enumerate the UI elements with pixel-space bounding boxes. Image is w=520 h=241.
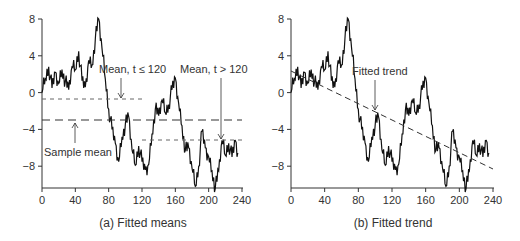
x-tick-label: 200	[199, 194, 217, 206]
x-tick-label: 40	[319, 194, 331, 206]
panel-a-fitted-means: 04080120160200240840−4−8 Mean, t ≤ 120 M…	[22, 13, 251, 230]
x-tick-label: 80	[352, 194, 364, 206]
y-tick-label: 8	[278, 13, 284, 25]
y-tick-label: −4	[271, 123, 284, 135]
caption-b: (b) Fitted trend	[354, 216, 433, 230]
x-tick-label: 0	[288, 194, 294, 206]
y-tick-label: −8	[22, 160, 35, 172]
annotation-sample-mean: Sample mean	[44, 146, 112, 158]
series-line	[291, 18, 489, 192]
annotation-mean-gt: Mean, t > 120	[180, 63, 248, 75]
figure: 04080120160200240840−4−8 Mean, t ≤ 120 M…	[0, 0, 520, 241]
y-tick-label: 4	[278, 50, 284, 62]
x-tick-label: 200	[450, 194, 468, 206]
annotation-fitted-trend: Fitted trend	[352, 65, 408, 77]
y-tick-label: 8	[29, 13, 35, 25]
x-tick-label: 120	[383, 194, 401, 206]
x-tick-label: 160	[416, 194, 434, 206]
x-tick-label: 160	[166, 194, 184, 206]
x-tick-label: 240	[233, 194, 251, 206]
x-tick-label: 80	[103, 194, 115, 206]
annotation-mean-le: Mean, t ≤ 120	[99, 63, 166, 75]
caption-a: (a) Fitted means	[99, 216, 186, 230]
series-line	[42, 18, 238, 192]
y-tick-label: −4	[22, 123, 35, 135]
x-tick-label: 40	[69, 194, 81, 206]
y-tick-label: 0	[29, 87, 35, 99]
x-tick-label: 120	[133, 194, 151, 206]
y-tick-label: 4	[29, 50, 35, 62]
y-tick-label: 0	[278, 87, 284, 99]
y-tick-label: −8	[271, 160, 284, 172]
x-tick-label: 240	[484, 194, 502, 206]
panel-b-fitted-trend: 04080120160200240840−4−8 Fitted trend (b…	[271, 13, 502, 230]
x-tick-label: 0	[39, 194, 45, 206]
